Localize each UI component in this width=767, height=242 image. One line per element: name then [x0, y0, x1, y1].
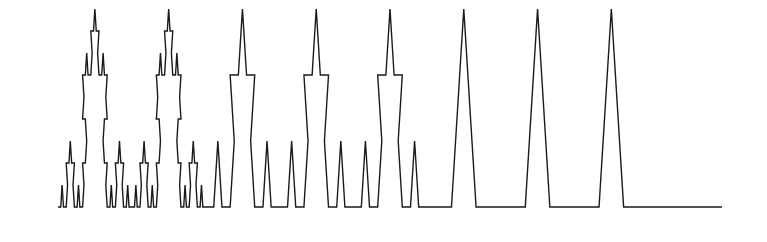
koch-curve-figure — [0, 0, 767, 242]
